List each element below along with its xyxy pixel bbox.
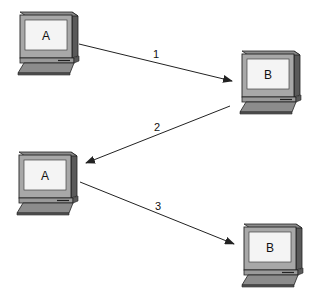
computer-label: A bbox=[41, 169, 49, 183]
computer-label: B bbox=[266, 241, 274, 255]
computer-label: A bbox=[42, 29, 50, 43]
arrow-step-3: 3 bbox=[80, 182, 234, 244]
computer-icon bbox=[240, 51, 301, 114]
arrow-line bbox=[80, 182, 234, 244]
arrow-line bbox=[86, 106, 230, 163]
arrow-step-2: 2 bbox=[86, 106, 230, 163]
computer-b-bottom: B bbox=[242, 224, 303, 287]
computer-icon bbox=[18, 12, 79, 75]
arrow-step-1: 1 bbox=[79, 44, 232, 81]
diagram-canvas: A B A B 1 2 3 bbox=[0, 0, 310, 297]
computer-b-top: B bbox=[240, 51, 301, 114]
step-label: 3 bbox=[155, 200, 161, 212]
computer-icon bbox=[242, 224, 303, 287]
computer-label: B bbox=[264, 68, 272, 82]
step-label: 2 bbox=[154, 121, 160, 133]
computer-a-middle: A bbox=[17, 152, 78, 215]
computer-a-top: A bbox=[18, 12, 79, 75]
computer-icon bbox=[17, 152, 78, 215]
step-label: 1 bbox=[153, 48, 159, 60]
